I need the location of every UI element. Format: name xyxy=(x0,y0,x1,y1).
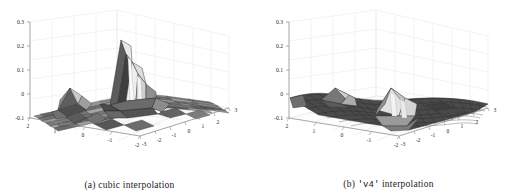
caption-b-prefix: (b) xyxy=(343,179,355,189)
surface-plot-a: 0.3 0.2 0.1 0 -0.1 xyxy=(0,0,259,165)
z-tick-label: 0.3 xyxy=(17,19,24,25)
z-tick-label: 0 xyxy=(21,91,24,97)
x-tick-label: -2 xyxy=(157,137,162,143)
x-tick-label: 0 xyxy=(447,128,450,134)
z-tick-label: 0.1 xyxy=(17,67,24,73)
y-tick-label: 1 xyxy=(313,128,316,134)
x-tick-label: -2 xyxy=(416,137,421,143)
subfigure-a: 0.3 0.2 0.1 0 -0.1 xyxy=(0,0,259,194)
y-tick-label: 0 xyxy=(341,132,344,138)
x-tick-label: 3 xyxy=(494,107,497,113)
x-tick-label: 1 xyxy=(202,123,205,129)
surface-plot-b-svg: 0.3 0.2 0.1 0 -0.1 xyxy=(259,0,518,165)
x-tick-label: -1 xyxy=(172,132,177,138)
x-tick-label: 2 xyxy=(476,119,479,125)
x-tick-label: 2 xyxy=(217,119,220,125)
surface-plot-b: 0.3 0.2 0.1 0 -0.1 xyxy=(259,0,518,165)
z-tick-label: 0.3 xyxy=(276,19,283,25)
z-tick-label: 0.1 xyxy=(276,67,283,73)
caption-b-quoted: 'v4' xyxy=(358,180,380,190)
figure-container: 0.3 0.2 0.1 0 -0.1 xyxy=(0,0,519,194)
z-tick-label: -0.1 xyxy=(274,115,283,121)
y-tick-label: -1 xyxy=(108,137,113,143)
z-axis-ticks-b xyxy=(286,22,289,118)
z-axis-tick-labels-b: 0.3 0.2 0.1 0 -0.1 xyxy=(274,19,283,121)
y-tick-label: 2 xyxy=(286,123,289,129)
x-tick-label: 0 xyxy=(188,128,191,134)
z-axis-ticks-a xyxy=(27,22,30,118)
z-tick-label: -0.1 xyxy=(15,115,24,121)
y-tick-label: 2 xyxy=(27,123,30,129)
y-tick-label: -2 xyxy=(394,142,399,148)
caption-a: (a) cubic interpolation xyxy=(0,180,259,190)
z-tick-label: 0.2 xyxy=(17,43,24,49)
caption-b: (b) 'v4' interpolation xyxy=(259,179,518,190)
caption-a-prefix: (a) xyxy=(84,180,95,190)
z-tick-label: 0 xyxy=(280,91,283,97)
y-tick-label: 0 xyxy=(82,132,85,138)
surface-mesh-b xyxy=(290,88,488,131)
z-axis-tick-labels-a: 0.3 0.2 0.1 0 -0.1 xyxy=(15,19,24,121)
x-tick-label: -3 xyxy=(142,141,147,147)
y-tick-label: -1 xyxy=(367,137,372,143)
x-tick-label: -3 xyxy=(401,141,406,147)
z-tick-label: 0.2 xyxy=(276,43,283,49)
y-tick-label: -2 xyxy=(135,142,140,148)
x-tick-label: 3 xyxy=(235,107,238,113)
x-tick-label: -1 xyxy=(431,132,436,138)
x-tick-label: 1 xyxy=(461,123,464,129)
caption-a-text: cubic interpolation xyxy=(98,180,174,190)
caption-b-text: interpolation xyxy=(382,179,434,189)
subfigure-b: 0.3 0.2 0.1 0 -0.1 xyxy=(259,0,518,194)
y-tick-label: 1 xyxy=(54,128,57,134)
surface-plot-a-svg: 0.3 0.2 0.1 0 -0.1 xyxy=(0,0,259,165)
central-bump-b xyxy=(375,88,419,131)
